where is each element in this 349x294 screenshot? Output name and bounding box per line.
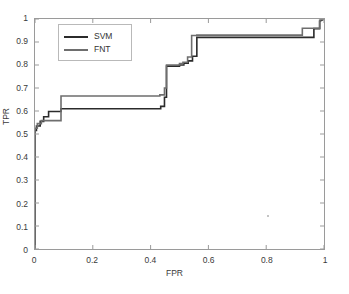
y-tick-label: 1: [0, 13, 28, 23]
y-tick-label: 0.8: [0, 59, 28, 69]
x-tick-label: 0.8: [261, 255, 273, 265]
y-tick-label: 0.9: [0, 36, 28, 46]
x-tick-label: 0: [32, 255, 37, 265]
x-tick-label: 0.2: [86, 255, 98, 265]
y-tick-label: 0: [0, 245, 28, 255]
chart-legend: SVM FNT: [58, 24, 132, 61]
legend-label-fnt: FNT: [94, 45, 111, 54]
x-tick-label: 0.4: [144, 255, 156, 265]
legend-item-svm: SVM: [59, 30, 131, 43]
y-tick-label: 0.3: [0, 175, 28, 185]
caption-strip: [30, 284, 320, 292]
legend-swatch-fnt: [64, 49, 88, 51]
y-tick-label: 0.4: [0, 152, 28, 162]
x-tick-label: 0.6: [203, 255, 215, 265]
x-axis-label: FPR: [0, 268, 349, 278]
y-tick-label: 0.7: [0, 83, 28, 93]
x-tick-label: 1: [323, 255, 328, 265]
y-tick-label: 0.1: [0, 222, 28, 232]
legend-label-svm: SVM: [94, 32, 112, 41]
legend-swatch-svm: [64, 36, 88, 38]
legend-item-fnt: FNT: [59, 43, 131, 56]
y-tick-label: 0.2: [0, 199, 28, 209]
roc-curve-figure: 00.10.20.30.40.50.60.70.80.91 00.20.40.6…: [0, 0, 349, 294]
y-axis-label: TPR: [1, 108, 11, 125]
y-tick-label: 0.5: [0, 129, 28, 139]
